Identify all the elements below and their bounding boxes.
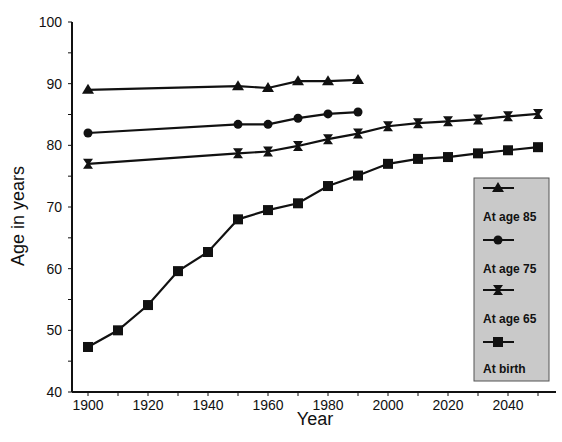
- series-at-age-85: [82, 74, 364, 94]
- circle-marker: [354, 108, 363, 117]
- series-line: [88, 80, 358, 90]
- square-marker: [233, 214, 243, 224]
- circle-marker: [294, 114, 303, 123]
- x-tick-label: 2020: [432, 397, 463, 413]
- square-marker: [173, 266, 183, 276]
- square-marker: [443, 152, 453, 162]
- legend-label: At age 85: [483, 210, 537, 224]
- series-line: [88, 114, 538, 164]
- circle-marker: [84, 129, 93, 138]
- square-marker: [383, 159, 393, 169]
- y-tick-label: 90: [46, 76, 62, 92]
- x-tick-label: 2000: [372, 397, 403, 413]
- x-tick-label: 1920: [132, 397, 163, 413]
- y-axis-title: Age in years: [8, 166, 28, 266]
- square-marker: [473, 148, 483, 158]
- square-marker: [113, 325, 123, 335]
- square-marker: [293, 198, 303, 208]
- series-at-age-75: [84, 108, 363, 138]
- square-marker: [203, 247, 213, 257]
- circle-marker: [324, 109, 333, 118]
- circle-marker: [234, 120, 243, 129]
- y-tick-label: 80: [46, 137, 62, 153]
- circle-marker: [264, 120, 273, 129]
- y-tick-label: 70: [46, 199, 62, 215]
- life-expectancy-chart: 4050607080901001900192019401960198020002…: [0, 0, 562, 442]
- y-tick-label: 100: [39, 14, 63, 30]
- x-tick-label: 1940: [192, 397, 223, 413]
- square-marker: [503, 145, 513, 155]
- square-marker: [143, 300, 153, 310]
- square-marker: [353, 171, 363, 181]
- circle-marker: [494, 236, 503, 245]
- series-at-age-65: [83, 109, 543, 169]
- legend-label: At age 75: [483, 262, 537, 276]
- triangle-marker: [232, 80, 244, 90]
- y-tick-label: 60: [46, 261, 62, 277]
- triangle-marker: [352, 74, 364, 84]
- square-marker: [533, 142, 543, 152]
- y-tick-label: 40: [46, 384, 62, 400]
- legend-label: At birth: [483, 362, 526, 376]
- x-axis-title: Year: [297, 409, 333, 429]
- legend-label: At age 65: [483, 312, 537, 326]
- square-marker: [493, 337, 503, 347]
- y-tick-label: 50: [46, 322, 62, 338]
- series-line: [88, 112, 358, 133]
- square-marker: [263, 205, 273, 215]
- square-marker: [323, 181, 333, 191]
- x-tick-label: 1900: [72, 397, 103, 413]
- square-marker: [413, 154, 423, 164]
- x-tick-label: 2040: [492, 397, 523, 413]
- series-line: [88, 147, 538, 347]
- square-marker: [83, 342, 93, 352]
- x-tick-label: 1960: [252, 397, 283, 413]
- legend: At age 85At age 75At age 65At birth: [474, 178, 549, 381]
- legend-box: [474, 178, 549, 381]
